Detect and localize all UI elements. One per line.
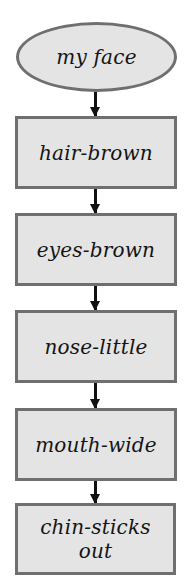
node-label: my face: [50, 45, 142, 69]
node-nose: nose-little: [15, 310, 177, 383]
node-label: eyes-brown: [31, 238, 161, 262]
arrow-connector: [94, 286, 97, 310]
arrow-connector: [94, 189, 97, 213]
arrow-connector: [94, 481, 97, 503]
node-chin: chin-sticks out: [15, 503, 176, 575]
arrow-connector: [94, 383, 97, 408]
node-label: mouth-wide: [29, 433, 163, 457]
node-label: nose-little: [38, 335, 153, 359]
start-node-my-face: my face: [16, 22, 177, 92]
arrow-connector: [94, 92, 97, 116]
node-mouth: mouth-wide: [15, 408, 177, 481]
node-eyes: eyes-brown: [15, 213, 177, 286]
node-label: chin-sticks out: [18, 515, 173, 563]
node-label: hair-brown: [33, 141, 159, 165]
node-hair: hair-brown: [15, 116, 177, 189]
